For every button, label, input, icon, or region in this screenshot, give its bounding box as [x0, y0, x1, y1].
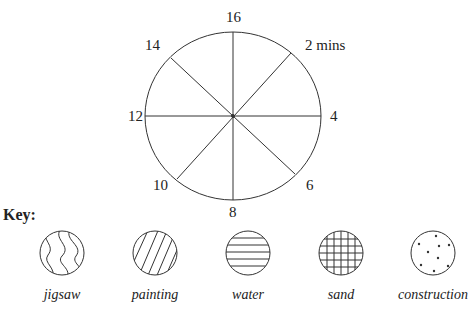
- clock-label-6: 6: [306, 178, 314, 193]
- clock-label-12: 12: [128, 109, 143, 124]
- clock-label-8: 8: [229, 205, 237, 220]
- construction-pattern-icon: [411, 231, 455, 275]
- key-label-jigsaw: jigsaw: [44, 287, 81, 303]
- water-pattern-icon: [224, 231, 272, 275]
- key-label-construction: construction: [398, 287, 468, 303]
- sand-pattern-icon: [319, 231, 363, 275]
- clock-label-10: 10: [153, 178, 168, 193]
- diagram-canvas: [0, 0, 475, 309]
- clock-label-4: 4: [330, 109, 338, 124]
- jigsaw-pattern-icon: [40, 230, 84, 280]
- key-label-water: water: [232, 287, 264, 303]
- clock-label-16: 16: [226, 10, 241, 25]
- key-title: Key:: [3, 206, 36, 224]
- clock-face: [145, 32, 321, 200]
- key-label-sand: sand: [328, 287, 354, 303]
- clock-label-2-mins: 2 mins: [305, 38, 345, 53]
- painting-pattern-icon: [130, 226, 184, 280]
- clock-label-14: 14: [145, 38, 160, 53]
- key-label-painting: painting: [132, 287, 179, 303]
